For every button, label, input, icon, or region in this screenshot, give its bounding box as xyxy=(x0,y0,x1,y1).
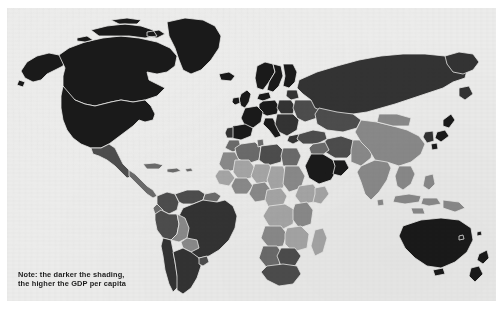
region-kenya-tanzania xyxy=(293,202,313,228)
map-note-line-1: Note: the darker the shading, xyxy=(18,270,126,280)
country-libya xyxy=(259,144,283,166)
country-egypt xyxy=(281,148,301,166)
country-sri-lanka xyxy=(377,199,384,206)
figure-page: Note: the darker the shading, the higher… xyxy=(0,0,503,312)
country-poland xyxy=(277,100,295,114)
map-note-line-2: the higher the GDP per capita xyxy=(18,279,126,289)
world-choropleth-map xyxy=(7,8,496,301)
map-note: Note: the darker the shading, the higher… xyxy=(18,270,126,289)
world-map-panel: Note: the darker the shading, the higher… xyxy=(7,8,496,301)
